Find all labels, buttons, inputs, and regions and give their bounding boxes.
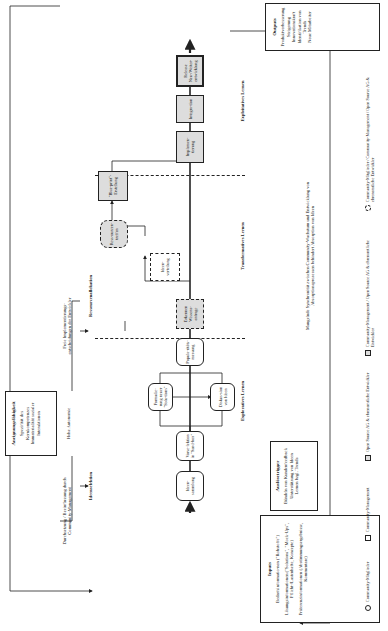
phase-label-exploitative: Exploitatives Lernen [240, 61, 245, 141]
node-release: Release Neu-/Weiter-entwicklung [176, 55, 204, 87]
node-ressourcentreffen: Ress-ourcen-treffen [100, 220, 128, 248]
capability-box: Aneignungsfähigkeit Spezifität des Kernk… [5, 391, 57, 456]
annotation-ideenselektion: Ideenselektion [88, 461, 93, 511]
node-ideensammlung: Ideen-sammlung [176, 471, 204, 501]
dashed-gray-square-icon [365, 350, 371, 356]
legend-item-management-open-source: Community-Management / Open Source AG & … [365, 236, 375, 356]
dashed-circle-icon [365, 205, 371, 211]
outputs-title: Outputs [272, 7, 277, 47]
node-implementierung: Implemen-tierung [176, 131, 204, 163]
legend-label: Open Source AG & ehrenamtliche Entwickle… [365, 373, 370, 452]
node-integration: Integra-tion [176, 95, 204, 123]
node-formulierung: Formulie-rung neuer "Solu-tions" [148, 383, 173, 411]
legend-label: Community-Mitglieder [365, 562, 370, 602]
legend-item-community-management: Community-Management [365, 471, 371, 541]
node-vorselektion: Vorse-lektion in "Sand-box" [176, 431, 204, 461]
phase-label-transformative: Transformatives Lernen [240, 201, 245, 291]
trigger-box: Auslösetrigger Bündeln von Kundenfeedbac… [270, 441, 318, 511]
annotation-freie-implementierung: Freie Implementierungs-entscheidungen de… [62, 291, 73, 361]
diagram-canvas: Inputs Bedarfsinformatio-nen ("Rohstoffe… [0, 0, 388, 631]
node-diskussion: Diskus-sion von Ideen [210, 383, 235, 411]
circle-icon [365, 605, 371, 611]
annotation-durchsetzung: Durchsetzung / Beeinflussung durch Commu… [62, 476, 73, 546]
gray-square-icon [365, 455, 371, 461]
annotation-hohe-autonomie: Hohe Autonomie [66, 401, 71, 446]
trigger-line: Lernen bzgl. Trends [294, 445, 299, 507]
capability-title: Aneignungsfähigkeit [11, 395, 16, 452]
node-erkennen-wissensanfrage: Erkennen Wissens-anfrage [176, 299, 204, 329]
dashed-square-icon [365, 535, 371, 541]
capability-line: Immaterialität sozialer Interaktionen [30, 395, 41, 452]
outputs-box: Outputs Produktverbesserung Steigerung I… [265, 3, 380, 51]
outputs-line: Innovationskraft [291, 7, 296, 47]
annotation-ressourcenallokation: Ressourcenallokation [88, 261, 93, 331]
node-popularitaet: Popula-ritäts-messung [176, 338, 204, 366]
annotation-synchronitaet: Mangelnde Synchronität zwischen Communit… [305, 181, 316, 331]
trigger-title: Auslösetrigger [275, 445, 280, 507]
node-ideenverteilung: Ideen-verteilung [150, 253, 180, 281]
legend-label: Community-Management / Open Source AG & … [365, 236, 375, 347]
outputs-line: Neue Mitarbeiter [307, 7, 312, 47]
legend-label: Community-Management [365, 488, 370, 532]
inputs-title: Inputs [267, 522, 272, 616]
phase-divider-left [95, 338, 245, 339]
capability-line: Spezifität des Kernkompetenzes [19, 395, 30, 452]
legend-item-community-members: Community-Mitglieder [365, 541, 371, 611]
inputs-line: Präferenzinformationen (Abstimmungsergeb… [298, 522, 309, 616]
legend-item-all-actors: Community-Mitglieder / Community-Managem… [365, 61, 375, 211]
phase-label-explorative: Exploratives Lernen [240, 361, 245, 441]
node-blueprint: "Blue-print"-Erstellung [98, 171, 128, 201]
inputs-line: Bedarfsinformatio-nen ("Rohstoffe") [275, 522, 280, 616]
legend-item-open-source: Open Source AG & ehrenamtliche Entwickle… [365, 371, 371, 461]
inputs-box: Inputs Bedarfsinformatio-nen ("Rohstoffe… [260, 515, 380, 623]
legend-label: Community-Mitglieder / Community-Managem… [365, 61, 375, 202]
inputs-line: Lösungsinformationen ("Solutions", "Mock… [284, 522, 295, 616]
